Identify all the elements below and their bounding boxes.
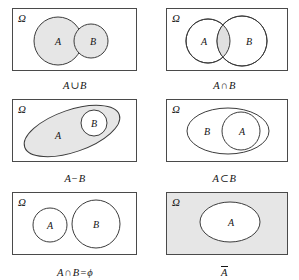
caption-right: B: [80, 80, 87, 91]
caption-a-bar: A: [221, 266, 228, 278]
label-a: A: [46, 220, 54, 231]
panel-disjoint: Ω A B A∩B=ϕ: [0, 186, 150, 280]
caption-complement: A: [150, 266, 299, 279]
label-a: A: [200, 36, 208, 47]
universe-label: Ω: [18, 103, 26, 115]
caption-intersection: A∩B: [150, 80, 299, 92]
panel-intersection: Ω A B A∩B: [150, 0, 299, 93]
panel-subset: Ω B A A⊂B: [150, 93, 299, 186]
label-b: B: [93, 219, 99, 230]
label-a: A: [54, 36, 62, 47]
panel-union: Ω A B A∪B: [0, 0, 150, 93]
universe-label: Ω: [172, 103, 180, 115]
label-b: B: [246, 36, 252, 47]
caption-right: B=ϕ: [73, 267, 93, 278]
universe-label: Ω: [18, 12, 26, 24]
label-b: B: [204, 126, 210, 137]
caption-left: A: [57, 267, 64, 278]
universe-label: Ω: [18, 196, 26, 208]
caption-right: B: [229, 80, 236, 91]
caption-operator: ∪: [70, 80, 80, 91]
caption-subset: A⊂B: [150, 173, 299, 185]
panel-difference: Ω A B A−B: [0, 93, 150, 186]
disjoint-diagram: Ω A B: [0, 186, 150, 280]
caption-left: A: [213, 80, 220, 91]
universe-label: Ω: [172, 196, 180, 208]
caption-operator: ∩: [64, 267, 73, 278]
caption-union: A∪B: [0, 80, 150, 92]
caption-operator: ⊂: [219, 173, 229, 184]
caption-left: A: [63, 80, 70, 91]
caption-difference: A−B: [0, 173, 150, 185]
label-a: A: [227, 217, 235, 228]
label-a: A: [54, 130, 62, 141]
venn-figure-grid: Ω A B A∪B Ω A B A∩B: [0, 0, 299, 280]
label-b: B: [91, 118, 97, 129]
label-a: A: [238, 126, 246, 137]
caption-right: B: [79, 173, 86, 184]
caption-operator: −: [71, 173, 78, 184]
caption-operator: ∩: [220, 80, 229, 91]
caption-right: B: [230, 173, 237, 184]
panel-complement: Ω A A: [150, 186, 299, 280]
label-b: B: [90, 36, 96, 47]
caption-disjoint: A∩B=ϕ: [0, 267, 150, 279]
universe-label: Ω: [172, 12, 180, 24]
